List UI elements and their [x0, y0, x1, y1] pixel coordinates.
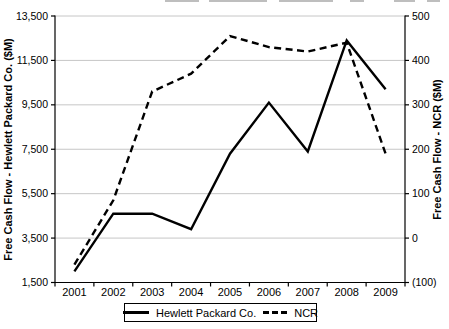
left-tick-label: 13,500 [16, 10, 48, 22]
x-tick-label: 2009 [373, 286, 397, 298]
hp-solid-line-sample [123, 311, 149, 314]
left-tick-label: 5,500 [22, 187, 48, 199]
chart-screenshot: 1,5003,5005,5007,5009,50011,50013,500(10… [0, 0, 449, 329]
right-tick-label: 400 [412, 54, 430, 66]
x-tick-label: 2004 [179, 286, 203, 298]
x-tick-label: 2001 [62, 286, 86, 298]
right-tick-label: 100 [412, 187, 430, 199]
x-tick-label: 2008 [334, 286, 358, 298]
left-axis-title: Free Cash Flow - Hewlett Packard Co. ($M… [1, 16, 15, 283]
x-tick-label: 2006 [257, 286, 281, 298]
left-tick-label: 7,500 [22, 143, 48, 155]
right-tick-label: 500 [412, 10, 430, 22]
legend: Hewlett Packard Co. NCR [124, 303, 317, 322]
left-tick-label: 1,500 [22, 276, 48, 288]
right-tick-label: 300 [412, 98, 430, 110]
ncr-data-line [74, 36, 385, 265]
ncr-dashed-line-sample [263, 311, 287, 314]
right-axis-title: Free Cash Flow - NCR ($M) [430, 16, 444, 283]
legend-label-ncr: NCR [294, 307, 318, 319]
right-tick-label: 200 [412, 143, 430, 155]
x-tick-label: 2007 [296, 286, 320, 298]
x-tick-label: 2005 [218, 286, 242, 298]
legend-label-hp: Hewlett Packard Co. [156, 307, 256, 319]
left-tick-label: 11,500 [17, 54, 48, 66]
line-chart-plot: 1,5003,5005,5007,5009,50011,50013,500(10… [0, 0, 449, 329]
x-tick-label: 2003 [140, 286, 164, 298]
left-tick-label: 9,500 [22, 98, 48, 110]
x-tick-label: 2002 [101, 286, 125, 298]
hp-data-line [74, 40, 385, 271]
right-tick-label: 0 [412, 232, 418, 244]
left-tick-label: 3,500 [22, 232, 48, 244]
